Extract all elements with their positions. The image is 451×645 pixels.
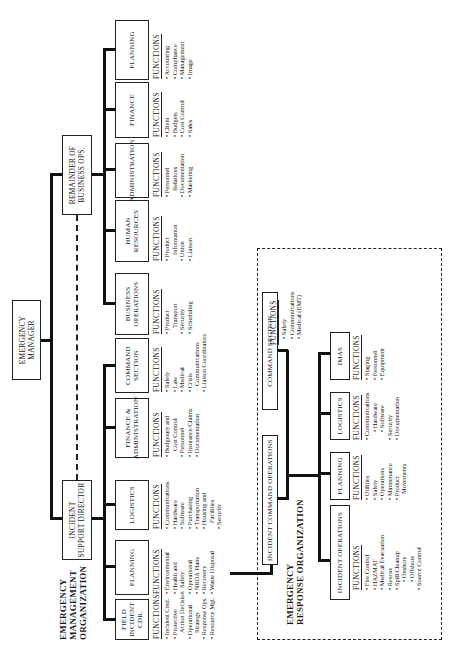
functions-header: FUNCTIONS	[153, 216, 162, 261]
unit-name: SECTION	[132, 346, 140, 385]
function-item: • Utilities	[363, 455, 370, 500]
connector	[320, 559, 330, 562]
function-item: • Rescue	[386, 535, 393, 590]
function-item: • Product	[163, 260, 170, 334]
function-item: • Documentation	[193, 385, 200, 457]
connector	[230, 572, 272, 575]
title-line: ORGANIZATION	[78, 566, 88, 640]
function-item: • Offshore	[408, 535, 415, 590]
box-label: BUSINESS OPS.	[77, 146, 86, 204]
function-item: • Communications	[363, 392, 370, 440]
connector	[103, 618, 115, 621]
functions-list: FUNCTIONS• Safety• Law• Medical• CrisisC…	[153, 325, 208, 392]
functions-header: FUNCTIONS	[353, 455, 362, 500]
functions-header: FUNCTIONS	[153, 92, 162, 137]
function-item: • Budgetary and	[163, 385, 170, 457]
function-item: • Scheduling	[186, 260, 193, 334]
function-item: Facilities	[208, 467, 215, 529]
connector	[103, 503, 115, 506]
function-item: • Safety	[163, 325, 170, 392]
function-item: • Crisis	[186, 325, 193, 392]
function-item: • Product	[163, 187, 170, 261]
function-item: • Medical	[178, 325, 185, 392]
unit-name: IMAS	[336, 347, 344, 365]
function-item: • Communications	[288, 291, 295, 345]
function-item: • Hardware	[171, 467, 178, 529]
connector	[320, 412, 330, 415]
function-item: • Personnel	[371, 335, 378, 380]
function-item: • Purchasing	[186, 467, 193, 529]
connector	[103, 426, 115, 429]
title-line: MANAGEMENT	[68, 566, 78, 640]
function-item: • Maintenance	[386, 455, 393, 500]
unit-name: FINANCE	[128, 94, 136, 126]
functions-header: FUNCTIONS	[353, 395, 362, 440]
emo-unit-box: HUMANRESOURCES	[115, 200, 149, 262]
functions-header: FUNCTIONS	[153, 34, 162, 79]
functions-list: FUNCTIONS• Staging• Personnel• Equipment	[353, 335, 386, 380]
emo-unit-box: PLANNING	[115, 540, 149, 595]
functions-list: FUNCTIONS• ProductTransport• Security• S…	[153, 260, 193, 334]
function-item: • Accounting	[163, 7, 170, 79]
function-item: • Safety	[371, 455, 378, 500]
connector	[50, 174, 53, 520]
function-item: • Marketing	[186, 130, 193, 197]
unit-name: RESOURCES	[132, 210, 140, 252]
function-item: Cost Control	[171, 385, 178, 457]
function-item: • Liaison	[186, 187, 193, 261]
box-label: INCIDENT	[68, 483, 77, 558]
functions-header: FUNCTIONS	[353, 545, 362, 590]
functions-list: FUNCTIONS• Communications• Hardware• Sof…	[153, 467, 223, 529]
function-item: • Fire Control	[363, 535, 370, 590]
ero-unit-box: INCIDENT OPERATIONS	[330, 505, 350, 600]
function-item: • Housing and	[200, 467, 207, 529]
incident-command-operations-box: INCIDENT COMMAND OPERATIONS	[262, 435, 278, 565]
ero-command-section-box	[290, 398, 292, 400]
box-label: EMERGENCY	[18, 316, 27, 364]
function-item: • Documentation	[178, 130, 185, 197]
incident-support-director-box: INCIDENTSUPPORT DIRECTOR	[62, 480, 92, 560]
unit-name: OPERATIONS	[132, 282, 140, 327]
function-item: • Documentation	[393, 392, 400, 440]
connector	[288, 474, 318, 477]
remainder-business-ops-box: REMAINDER OFBUSINESS OPS.	[62, 135, 92, 215]
org-chart: EMERGENCYMANAGER INCIDENTSUPPORT DIRECTO…	[0, 0, 451, 645]
connector	[103, 49, 106, 305]
ero-command-section	[278, 381, 280, 383]
dashed-link	[76, 215, 78, 480]
function-item: • Security	[215, 467, 222, 529]
function-item: • Source Control	[415, 535, 422, 590]
functions-list: FUNCTIONS• Budgetary andCost Control• Pe…	[153, 385, 200, 457]
function-item: • Sales	[186, 69, 193, 137]
function-item: • HAZMAT	[371, 535, 378, 590]
function-item: Relations	[171, 130, 178, 197]
function-item: • Medical Evacuation	[378, 535, 385, 590]
command-section-functions: FUNCTIONS• Safety• Communications• Medic…	[270, 291, 303, 345]
function-item: • Budgets	[171, 69, 178, 137]
functions-header: FUNCTIONS	[353, 335, 362, 380]
connector	[320, 352, 330, 355]
function-item: • Recovery	[200, 527, 207, 594]
unit-name: ADMINISTRATION	[132, 397, 140, 460]
unit-name: PLANNING	[128, 549, 136, 586]
unit-name: ADMINISTRATION	[128, 139, 136, 202]
unit-name: PLANNING	[336, 457, 344, 494]
emo-unit-box: LOGISTICS	[115, 480, 149, 530]
function-item: • Compliance	[171, 7, 178, 79]
unit-name: FIELD	[120, 601, 128, 638]
function-item: • Client	[163, 69, 170, 137]
box-label: REMAINDER OF	[68, 146, 77, 204]
functions-list: FUNCTIONS• ProductInformation• Union• Li…	[153, 187, 193, 261]
functions-header: FUNCTIONS	[153, 549, 162, 594]
box-label: MANAGER	[27, 316, 36, 364]
functions-header: FUNCTIONS	[153, 594, 162, 639]
function-item: • Personnel	[163, 130, 170, 197]
function-item: • Cost Control	[178, 69, 185, 137]
function-item: • Security	[178, 260, 185, 334]
connector	[103, 302, 115, 305]
connector	[103, 48, 115, 51]
unit-name: COMMAND	[124, 346, 132, 385]
function-item: • Operational	[186, 527, 193, 594]
emo-unit-box: FIELDINCIDENT CDR.	[115, 599, 149, 640]
unit-name: INCIDENT OPERATIONS	[336, 512, 344, 593]
